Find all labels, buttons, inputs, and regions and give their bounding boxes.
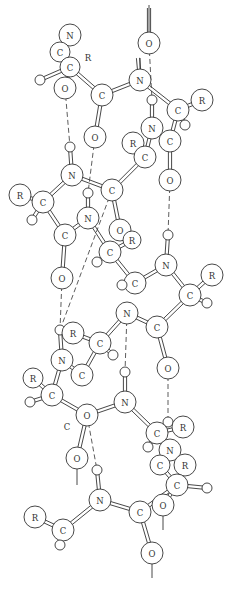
atom-c: C <box>32 191 54 213</box>
atom-c: C <box>54 224 76 246</box>
atom-sphere <box>83 188 93 198</box>
atom-n: N <box>77 207 99 229</box>
atom-h <box>147 95 157 105</box>
atom-label: C <box>107 248 114 258</box>
atom-label: C <box>132 279 139 289</box>
atom-n: N <box>89 489 111 511</box>
atom-label: N <box>136 76 144 86</box>
free-label: R <box>85 53 92 63</box>
atom-label: N <box>68 171 76 181</box>
atom-label: R <box>17 191 24 201</box>
atom-label: R <box>129 236 136 246</box>
atom-sphere <box>147 95 157 105</box>
atom-label: O <box>160 501 167 511</box>
atom-c: C <box>179 284 201 306</box>
atom-label: C <box>109 186 116 196</box>
atom-n: N <box>141 117 163 139</box>
atom-label: N <box>162 261 170 271</box>
atom-o: O <box>66 447 88 469</box>
atom-o: O <box>152 494 174 516</box>
atom-o: O <box>159 169 181 191</box>
atom-sphere <box>180 120 190 130</box>
atom-sphere <box>108 350 118 360</box>
atom-label: C <box>40 198 47 208</box>
atom-label: C <box>67 63 74 73</box>
atom-c: C <box>150 455 170 475</box>
atom-c: C <box>159 130 181 152</box>
atom-label: R <box>199 96 206 106</box>
atom-h <box>180 120 190 130</box>
atom-c: C <box>146 316 168 338</box>
atom-h <box>202 298 212 308</box>
atom-h <box>83 188 93 198</box>
atom-c: C <box>134 146 156 168</box>
atom-r: R <box>9 184 31 206</box>
atom-label: O <box>62 84 69 94</box>
atom-sphere <box>92 257 102 267</box>
atom-r: R <box>24 506 46 528</box>
atom-label: C <box>99 91 106 101</box>
atom-c: C <box>129 501 151 523</box>
atom-h <box>117 280 127 290</box>
atom-sphere <box>120 367 130 377</box>
atom-sphere <box>35 75 45 85</box>
atom-h <box>143 442 153 452</box>
atom-n: N <box>116 302 138 324</box>
atom-h <box>108 350 118 360</box>
atom-label: C <box>157 461 164 471</box>
atom-c: C <box>52 519 74 541</box>
atom-c: C <box>91 84 113 106</box>
atom-label: R <box>182 461 189 471</box>
atom-o: O <box>51 267 73 289</box>
atom-label: C <box>49 391 56 401</box>
atom-h <box>65 142 75 152</box>
atom-sphere <box>163 230 173 240</box>
atom-label: C <box>60 526 67 536</box>
atom-label: R <box>32 513 39 523</box>
atom-c: C <box>99 241 121 263</box>
atom-sphere <box>143 442 153 452</box>
atom-h <box>27 215 37 225</box>
alpha-helix-diagram: NOCCNOCRCNOCRCNOCRCNOCRCNROCCNCRCNOCRCNO… <box>0 0 237 589</box>
atom-o: O <box>84 126 106 148</box>
atom-label: R <box>209 271 216 281</box>
atom-n: N <box>61 164 83 186</box>
atom-c: C <box>89 332 111 354</box>
atom-label: N <box>96 496 104 506</box>
atom-sphere <box>202 298 212 308</box>
atom-sphere <box>65 142 75 152</box>
atom-c: C <box>71 364 93 386</box>
atom-r: R <box>23 368 43 388</box>
atom-sphere <box>55 540 65 550</box>
atom-c: C <box>101 179 123 201</box>
free-label: C <box>64 422 71 432</box>
atom-label: R <box>70 329 77 339</box>
atom-sphere <box>117 280 127 290</box>
atom-label: O <box>74 454 81 464</box>
atom-c: C <box>60 57 80 77</box>
atom-label: N <box>66 31 74 41</box>
atom-c: C <box>124 272 146 294</box>
atom-o: O <box>141 542 163 564</box>
atom-label: N <box>148 124 156 134</box>
atom-sphere <box>25 397 35 407</box>
atom-label: C <box>97 339 104 349</box>
atom-sphere <box>27 215 37 225</box>
atom-label: C <box>57 48 64 58</box>
atom-sphere <box>202 483 212 493</box>
atom-o: O <box>54 77 76 99</box>
atom-label: O <box>149 549 156 559</box>
atom-h <box>92 465 102 475</box>
atom-label: C <box>142 153 149 163</box>
molecule-canvas: NOCCNOCRCNOCRCNOCRCNOCRCNROCCNCRCNOCRCNO… <box>0 0 237 589</box>
atom-label: C <box>79 371 86 381</box>
bond-stubs <box>77 5 163 578</box>
atom-o: O <box>157 357 179 379</box>
atom-label: R <box>130 139 137 149</box>
atom-label: C <box>187 291 194 301</box>
atom-label: C <box>62 231 69 241</box>
atom-h <box>163 230 173 240</box>
atom-r: R <box>201 264 223 286</box>
atom-label: C <box>137 508 144 518</box>
atom-c: C <box>166 474 188 496</box>
